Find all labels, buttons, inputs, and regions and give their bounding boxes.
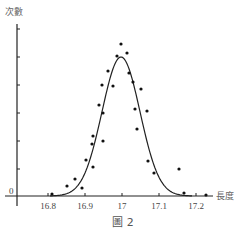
x-tick-label: 16.8: [40, 201, 56, 211]
x-axis-title: 長度: [216, 190, 234, 201]
data-point: [101, 111, 104, 114]
data-point: [73, 177, 76, 180]
x-tick-label: 16.9: [77, 201, 93, 211]
data-point: [91, 165, 94, 168]
data-point: [84, 158, 87, 161]
data-point: [139, 87, 142, 90]
x-tick-label: 17.1: [151, 201, 167, 211]
data-point: [125, 51, 128, 54]
data-point: [145, 109, 148, 112]
data-point: [204, 193, 207, 196]
data-point: [131, 80, 134, 83]
data-point: [90, 142, 93, 145]
x-tick-label: 17.2: [188, 201, 204, 211]
normal-curve: [50, 57, 192, 196]
x-tick-label: 17: [118, 201, 128, 211]
figure-caption: 圖 2: [112, 216, 134, 229]
y-axis-title: 次數: [5, 6, 23, 17]
data-point: [152, 171, 155, 174]
data-point: [133, 107, 136, 110]
data-point: [119, 42, 122, 45]
data-point: [50, 192, 53, 195]
data-point: [91, 134, 94, 137]
data-point: [177, 167, 180, 170]
data-point: [97, 103, 100, 106]
data-point: [115, 54, 118, 57]
data-point: [111, 84, 114, 87]
chart: 次數 長度 0 16.8 16.9 17 17.1 17.2 圖 2: [0, 0, 242, 235]
data-point: [100, 83, 103, 86]
data-point: [106, 69, 109, 72]
data-point: [182, 191, 185, 194]
data-point: [65, 184, 68, 187]
origin-label: 0: [9, 186, 14, 196]
data-point: [135, 127, 138, 130]
data-point: [127, 71, 130, 74]
data-points: [50, 42, 207, 196]
data-point: [101, 139, 104, 142]
data-point: [146, 159, 149, 162]
data-point: [80, 186, 83, 189]
